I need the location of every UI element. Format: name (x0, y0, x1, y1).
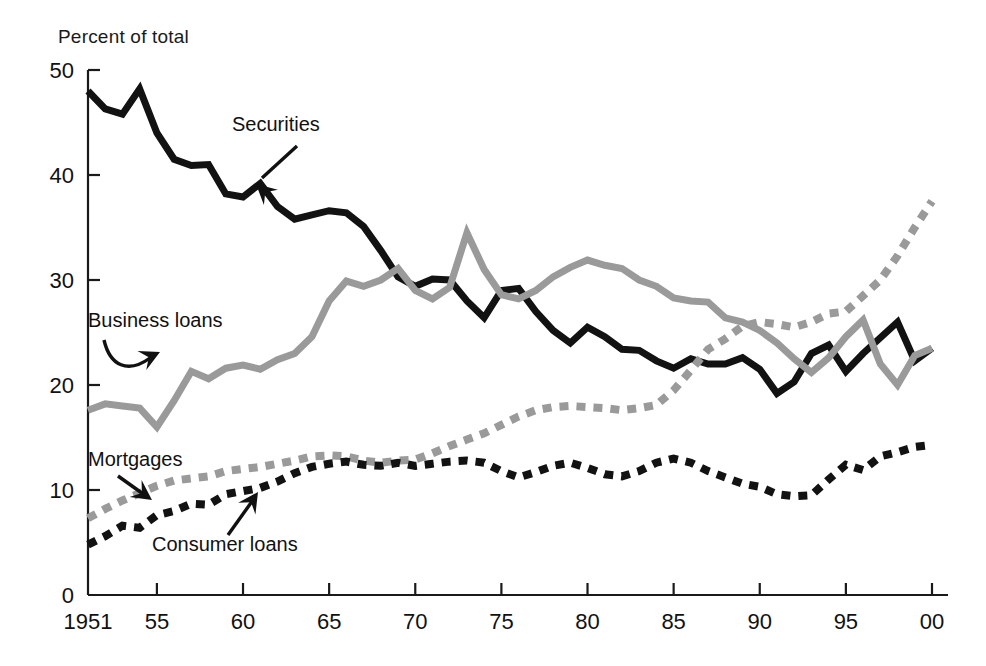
annotation-label-mortgages: Mortgages (88, 448, 183, 470)
y-axis-title: Percent of total (58, 26, 189, 48)
x-axis-tick-label: 70 (403, 609, 427, 634)
x-axis-tick-label: 1951 (64, 609, 113, 634)
x-axis-tick-label: 85 (661, 609, 685, 634)
annotation-leader-securities (262, 146, 297, 178)
line-chart-plot: 01020304050195155606570758085909500Secur… (0, 0, 986, 666)
y-axis-tick-label: 10 (50, 478, 74, 503)
y-axis-tick-label: 20 (50, 373, 74, 398)
annotation-arrow-business-loans (137, 351, 160, 370)
annotation-label-consumer-loans: Consumer loans (152, 533, 298, 555)
annotation-arrow-consumer-loans (238, 492, 258, 514)
y-axis-tick-label: 0 (62, 583, 74, 608)
chart-figure: Percent of total 01020304050195155606570… (0, 0, 986, 666)
x-axis-tick-label: 75 (489, 609, 513, 634)
y-axis-tick-label: 40 (50, 163, 74, 188)
series-line-securities (88, 89, 932, 394)
y-axis-tick-label: 30 (50, 268, 74, 293)
series-line-consumer-loans (88, 445, 932, 545)
x-axis-tick-label: 65 (317, 609, 341, 634)
annotation-leader-consumer-loans (228, 500, 253, 535)
x-axis-tick-label: 80 (575, 609, 599, 634)
annotation-label-securities: Securities (232, 113, 320, 135)
x-axis-tick-label: 60 (231, 609, 255, 634)
annotation-label-business-loans: Business loans (88, 309, 223, 331)
x-axis-tick-label: 90 (748, 609, 772, 634)
x-axis-tick-label: 55 (145, 609, 169, 634)
x-axis-tick-label: 95 (834, 609, 858, 634)
annotations-group: SecuritiesBusiness loansMortgagesConsume… (88, 113, 320, 555)
y-axis-tick-label: 50 (50, 58, 74, 83)
x-axis-tick-label: 00 (920, 609, 944, 634)
